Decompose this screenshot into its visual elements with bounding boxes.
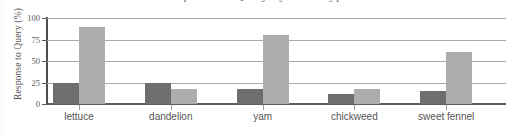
bar xyxy=(237,89,263,104)
y-axis-tick-label: 75 xyxy=(16,36,40,45)
bar-group xyxy=(145,18,197,104)
bar xyxy=(446,52,472,104)
chart-title-text: Response to Query by Plant Type xyxy=(0,0,512,3)
plot-area xyxy=(47,18,506,104)
bar-chart-figure: Response to Query by Plant Type Response… xyxy=(0,0,512,135)
x-axis-tick-label: yam xyxy=(253,111,272,122)
bar-group xyxy=(237,18,289,104)
chart-title-cropped: Response to Query by Plant Type xyxy=(0,0,512,11)
bar xyxy=(263,35,289,104)
x-axis-tick-labels: lettucedandelionyamchickweedsweet fennel xyxy=(47,111,512,129)
y-axis-tick-labels: 0255075100 xyxy=(14,18,40,104)
bar xyxy=(171,89,197,104)
x-axis-tick-mark xyxy=(263,105,264,110)
scan-edge xyxy=(0,0,3,135)
y-axis-tick-label: 25 xyxy=(16,79,40,88)
bar xyxy=(420,91,446,104)
x-axis-tick-label: sweet fennel xyxy=(418,111,474,122)
bar-group xyxy=(53,18,105,104)
x-axis-tick-marks xyxy=(47,105,506,110)
bar-group xyxy=(420,18,472,104)
bar xyxy=(145,83,171,105)
y-axis-tick-label: 50 xyxy=(16,57,40,66)
bar-group xyxy=(328,18,380,104)
bar xyxy=(328,94,354,104)
x-axis-tick-label: lettuce xyxy=(64,111,93,122)
bar xyxy=(53,83,79,105)
x-axis-tick-label: dandelion xyxy=(149,111,192,122)
y-axis-tick-label: 0 xyxy=(16,100,40,109)
bar xyxy=(354,89,380,104)
x-axis-tick-mark xyxy=(79,105,80,110)
x-axis-tick-mark xyxy=(171,105,172,110)
x-axis-tick-label: chickweed xyxy=(331,111,378,122)
x-axis-tick-mark xyxy=(446,105,447,110)
x-axis-tick-mark xyxy=(354,105,355,110)
bar xyxy=(79,27,105,104)
y-axis-tick-label: 100 xyxy=(16,14,40,23)
